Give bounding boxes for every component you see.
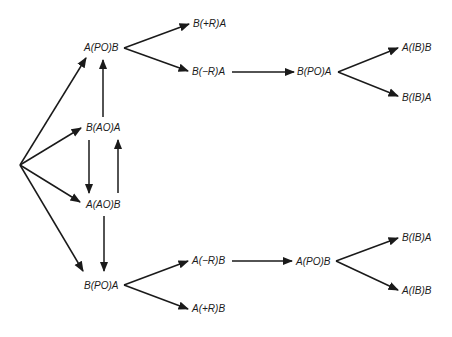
edge-origin-to-a-ao-b	[20, 165, 80, 202]
edge-origin-to-b-ao-a	[20, 128, 81, 165]
edge-a-po-b-to-b-plus-r-a	[124, 24, 189, 48]
node-b-ao-a: B(AO)A	[86, 122, 120, 134]
edge-b-po-a-to-a-ib-b	[338, 48, 398, 72]
node-a-plus-r-b: A(+R)B	[192, 303, 225, 315]
node-a-ao-b: A(AO)B	[86, 199, 120, 211]
node-a-minus-r-b: A(−R)B	[192, 255, 225, 267]
node-a-po-b-top: A(PO)B	[84, 42, 118, 54]
diagram-edges	[0, 0, 452, 337]
edge-origin-to-b-po-a	[20, 165, 83, 271]
edge-b-po-a-to-a-plus-r-b	[124, 285, 188, 309]
node-a-po-b-right: A(PO)B	[296, 256, 330, 268]
node-b-minus-r-a: B(−R)A	[192, 66, 225, 78]
edge-b-po-a-to-a-minus-r-b	[124, 261, 188, 285]
edge-a-po-b-to-a-ib-b	[336, 261, 398, 290]
node-b-ib-a-bottom: B(IB)A	[402, 232, 431, 244]
node-b-po-a-right: B(PO)A	[297, 66, 331, 78]
node-a-ib-b-top: A(IB)B	[402, 42, 431, 54]
relation-transition-diagram: A(PO)B B(+R)A B(−R)A B(PO)A A(IB)B B(IB)…	[0, 0, 452, 337]
node-b-plus-r-a: B(+R)A	[193, 18, 226, 30]
edge-a-po-b-to-b-minus-r-a	[124, 48, 188, 71]
node-a-ib-b-bottom: A(IB)B	[402, 285, 431, 297]
node-b-ib-a-top: B(IB)A	[402, 92, 431, 104]
node-b-po-a-bottom: B(PO)A	[84, 280, 118, 292]
edge-b-po-a-to-b-ib-a	[338, 72, 398, 96]
edge-origin-to-a-po-b	[20, 58, 86, 165]
edge-a-po-b-to-b-ib-a	[336, 238, 398, 261]
